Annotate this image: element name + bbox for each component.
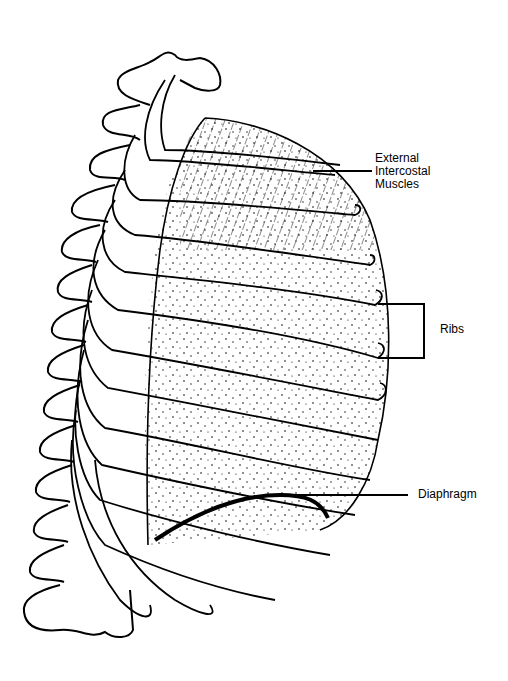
- label-line: Muscles: [375, 178, 465, 191]
- label-ribs: Ribs: [440, 323, 464, 336]
- label-diaphragm: Diaphragm: [418, 488, 477, 501]
- thoracic-cage-diagram: [0, 0, 508, 681]
- label-external-intercostal-muscles: External Intercostal Muscles: [375, 152, 465, 191]
